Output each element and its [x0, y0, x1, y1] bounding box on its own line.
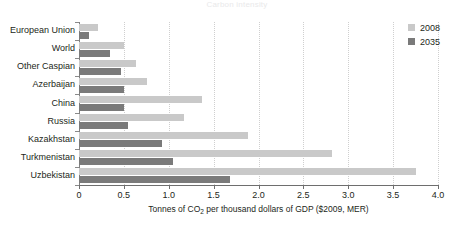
category-label: Russia — [1, 116, 75, 126]
bar-2035 — [79, 140, 162, 147]
x-tick-label: 0 — [59, 190, 99, 201]
carbon-intensity-bar-chart: Carbon intensity European UnionWorldOthe… — [0, 0, 474, 227]
x-axis-label-after: per thousand dollars of GDP ($2009, MER) — [204, 204, 369, 214]
category-label: China — [1, 98, 75, 108]
x-axis-label-before: Tonnes of CO — [148, 204, 200, 214]
y-tick — [75, 58, 79, 59]
bar-2035 — [79, 68, 121, 75]
category-label: Other Caspian — [1, 61, 75, 71]
bar-2008 — [79, 24, 98, 31]
plot-area — [79, 22, 438, 185]
y-tick — [75, 113, 79, 114]
co2-subscript: 2 — [200, 208, 204, 215]
y-tick — [75, 94, 79, 95]
x-tick — [303, 185, 304, 189]
y-tick — [75, 131, 79, 132]
x-tick-label: 0.5 — [104, 190, 144, 201]
x-tick-label: 3.0 — [328, 190, 368, 201]
x-tick-label: 4.0 — [418, 190, 458, 201]
bar-2035 — [79, 122, 128, 129]
bar-2008 — [79, 42, 124, 49]
category-labels: European UnionWorldOther CaspianAzerbaij… — [0, 22, 75, 185]
bar-2035 — [79, 176, 230, 183]
bar-2035 — [79, 104, 124, 111]
legend-item[interactable]: 2035 — [408, 32, 470, 46]
gridline — [348, 22, 349, 185]
gridline — [214, 22, 215, 185]
y-tick — [75, 149, 79, 150]
y-tick — [75, 76, 79, 77]
category-label: Azerbaijan — [1, 79, 75, 89]
gridline — [393, 22, 394, 185]
y-tick — [75, 40, 79, 41]
x-tick-label: 2.5 — [283, 190, 323, 201]
legend-label: 2035 — [420, 35, 440, 49]
x-tick — [259, 185, 260, 189]
x-tick — [438, 185, 439, 189]
gridline — [259, 22, 260, 185]
x-tick-label: 1.0 — [149, 190, 189, 201]
bar-2008 — [79, 114, 184, 121]
bar-2008 — [79, 96, 202, 103]
x-tick-label: 1.5 — [194, 190, 234, 201]
category-label: Kazakhstan — [1, 134, 75, 144]
bar-2035 — [79, 32, 89, 39]
bar-2008 — [79, 78, 147, 85]
bar-2008 — [79, 150, 332, 157]
bar-2035 — [79, 86, 124, 93]
x-tick — [169, 185, 170, 189]
x-tick-label: 3.5 — [373, 190, 413, 201]
category-label: Uzbekistan — [1, 170, 75, 180]
x-tick — [79, 185, 80, 189]
x-tick — [393, 185, 394, 189]
y-tick — [75, 185, 79, 186]
x-tick — [348, 185, 349, 189]
y-tick — [75, 167, 79, 168]
y-tick — [75, 22, 79, 23]
legend-swatch-icon — [408, 24, 415, 31]
category-label: World — [1, 43, 75, 53]
bar-2035 — [79, 158, 173, 165]
chart-legend: 20082035 — [408, 18, 470, 46]
x-tick — [124, 185, 125, 189]
legend-swatch-icon — [408, 38, 415, 45]
x-tick — [214, 185, 215, 189]
category-label: Turkmenistan — [1, 152, 75, 162]
bar-2035 — [79, 50, 110, 57]
gridline — [303, 22, 304, 185]
chart-title: Carbon intensity — [0, 0, 474, 9]
category-label: European Union — [1, 25, 75, 35]
bar-2008 — [79, 60, 136, 67]
x-axis-label: Tonnes of CO2 per thousand dollars of GD… — [79, 203, 438, 216]
x-tick-label: 2.0 — [239, 190, 279, 201]
bar-2008 — [79, 168, 416, 175]
bar-2008 — [79, 132, 248, 139]
legend-item[interactable]: 2008 — [408, 18, 470, 32]
